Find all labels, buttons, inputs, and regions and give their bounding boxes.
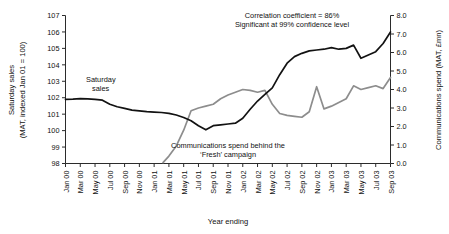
chart-svg: 9899100101102103104105106107 0.01.02.03.…	[0, 0, 449, 234]
x-axis-title: Year ending	[208, 217, 248, 226]
left-tick-label: 98	[51, 159, 59, 168]
chart-figure: 9899100101102103104105106107 0.01.02.03.…	[0, 0, 449, 234]
right-tick-label: 6.0	[397, 48, 407, 57]
x-tick-label: Jul 02	[283, 171, 292, 190]
x-tick-group: Jan 00Mar 00May 00Jul 00Sep 00Nov 00Jan …	[62, 164, 396, 195]
bottom-axis: Jan 00Mar 00May 00Jul 00Sep 00Nov 00Jan …	[62, 164, 396, 195]
left-tick-label: 103	[47, 77, 59, 86]
left-tick-group: 9899100101102103104105106107	[47, 11, 65, 168]
right-tick-label: 4.0	[397, 85, 407, 94]
x-tick-label: Sep 02	[298, 171, 307, 194]
x-tick-label: Mar 00	[76, 171, 85, 194]
x-tick-label: Sep 01	[209, 171, 218, 194]
left-tick-label: 102	[47, 93, 59, 102]
left-tick-label: 107	[47, 11, 59, 20]
left-tick-label: 99	[51, 143, 59, 152]
right-tick-label: 8.0	[397, 11, 407, 20]
x-tick-label: May 00	[91, 171, 100, 195]
left-axis-title-line2: (MAT, indexed Jan 01 = 100)	[18, 41, 27, 138]
x-tick-label: Mar 02	[254, 171, 263, 194]
right-axis-title-label: Communications spend (MAT, £mn)	[434, 29, 443, 150]
correlation-note-line1: Correlation coefficient = 86%	[245, 11, 340, 20]
x-tick-label: Jan 02	[239, 171, 248, 193]
x-tick-label: Jul 00	[106, 171, 115, 190]
left-tick-label: 105	[47, 44, 59, 53]
right-tick-label: 3.0	[397, 104, 407, 113]
saturday-sales-label-line1: Saturday	[86, 75, 116, 84]
right-axis: 0.01.02.03.04.05.06.07.08.0	[391, 11, 407, 168]
right-tick-label: 0.0	[397, 159, 407, 168]
right-tick-label: 2.0	[397, 122, 407, 131]
right-axis-title: Communications spend (MAT, £mn)	[434, 29, 443, 150]
right-tick-label: 5.0	[397, 67, 407, 76]
x-tick-label: Jul 03	[372, 171, 381, 190]
x-tick-label: Nov 02	[313, 171, 322, 194]
x-tick-label: Mar 01	[165, 171, 174, 194]
x-tick-label: May 02	[268, 171, 277, 195]
x-tick-label: Sep 03	[387, 171, 396, 194]
x-tick-label: Mar 03	[342, 171, 351, 194]
annotation-correlation: Correlation coefficient = 86% Significan…	[235, 11, 350, 29]
left-axis-title-line1: Saturday sales	[7, 65, 16, 115]
right-tick-label: 7.0	[397, 30, 407, 39]
campaign-note-line2: ‘Fresh’ campaign	[200, 150, 256, 159]
left-axis-title: Saturday sales (MAT, indexed Jan 01 = 10…	[7, 41, 27, 138]
right-tick-label: 1.0	[397, 141, 407, 150]
saturday-sales-label-line2: sales	[92, 84, 110, 93]
x-tick-label: Nov 00	[135, 171, 144, 194]
x-tick-label: Jan 03	[327, 171, 336, 193]
annotation-saturday-sales: Saturday sales	[86, 75, 116, 93]
x-tick-label: May 03	[357, 171, 366, 195]
x-tick-label: May 01	[180, 171, 189, 195]
x-tick-label: Sep 00	[121, 171, 130, 194]
correlation-note-line2: Significant at 99% confidence level	[235, 20, 350, 29]
x-tick-label: Jan 01	[150, 171, 159, 193]
x-tick-label: Nov 01	[224, 171, 233, 194]
left-axis: 9899100101102103104105106107	[47, 11, 65, 168]
x-tick-label: Jan 00	[62, 171, 71, 193]
left-tick-label: 101	[47, 110, 59, 119]
x-tick-label: Jul 01	[194, 171, 203, 190]
left-tick-label: 100	[47, 126, 59, 135]
campaign-note-line1: Communications spend behind the	[171, 141, 285, 150]
left-tick-label: 106	[47, 28, 59, 37]
left-tick-label: 104	[47, 61, 59, 70]
annotation-campaign: Communications spend behind the ‘Fresh’ …	[171, 141, 285, 159]
right-tick-group: 0.01.02.03.04.05.06.07.08.0	[391, 11, 407, 168]
